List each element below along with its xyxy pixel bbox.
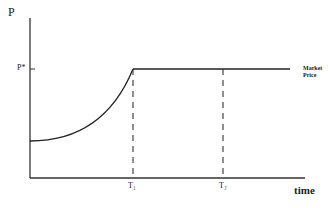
x-axis-label: time (294, 184, 315, 196)
t2-label: T₂ (219, 181, 227, 190)
p-star-label: P* (17, 63, 25, 72)
y-axis-label: P (8, 5, 15, 20)
legend-line-2: Price (303, 72, 322, 79)
t1-label: T₁ (128, 181, 136, 190)
chart-canvas (0, 0, 332, 208)
price-curve-rising (30, 69, 133, 141)
legend-line-1: Market (303, 65, 322, 72)
legend-market-price: Market Price (303, 65, 322, 79)
